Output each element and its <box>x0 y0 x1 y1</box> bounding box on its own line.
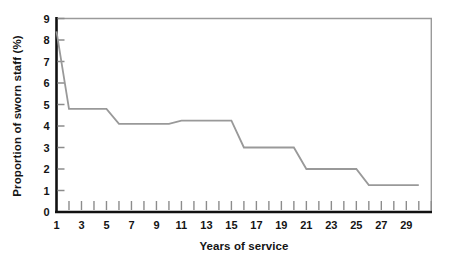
x-axis-tick-label: 11 <box>176 219 188 231</box>
x-axis-tick-label: 3 <box>78 219 84 231</box>
y-axis-title: Proportion of sworn staff (%) <box>11 35 23 196</box>
x-axis-tick-label: 29 <box>400 219 412 231</box>
y-axis-tick-label: 4 <box>43 120 50 132</box>
y-axis-tick-label: 9 <box>43 13 49 25</box>
y-axis-tick-label: 0 <box>43 206 49 218</box>
y-axis-tick-label: 7 <box>43 56 49 68</box>
y-axis-tick-label: 8 <box>43 34 49 46</box>
x-axis-tick-label: 13 <box>200 219 212 231</box>
x-axis-tick-label: 9 <box>153 219 159 231</box>
x-axis-tick-label: 17 <box>250 219 262 231</box>
y-axis-tick-label: 2 <box>43 163 49 175</box>
x-axis-tick-label: 15 <box>225 219 237 231</box>
y-axis-tick-label: 3 <box>43 142 49 154</box>
x-axis-tick-label: 1 <box>53 219 59 231</box>
x-axis-tick-label: 27 <box>375 219 387 231</box>
line-chart: 0123456789 1357911131517192123252729 Yea… <box>0 0 453 262</box>
chart-figure: 0123456789 1357911131517192123252729 Yea… <box>0 0 453 262</box>
x-axis-tick-labels: 1357911131517192123252729 <box>53 219 412 231</box>
x-axis-tick-label: 5 <box>103 219 109 231</box>
y-axis-tick-label: 6 <box>43 77 49 89</box>
y-axis-tick-label: 5 <box>43 99 49 111</box>
y-axis-tick-label: 1 <box>43 185 49 197</box>
x-axis-title: Years of service <box>199 240 288 252</box>
x-axis-tick-label: 25 <box>350 219 362 231</box>
x-axis-tick-label: 21 <box>300 219 312 231</box>
x-axis-tick-label: 7 <box>128 219 134 231</box>
x-axis-tick-label: 23 <box>325 219 337 231</box>
x-axis-tick-label: 19 <box>275 219 287 231</box>
